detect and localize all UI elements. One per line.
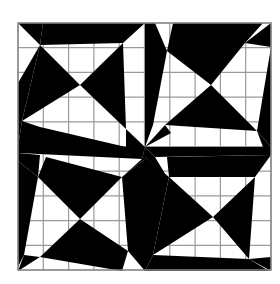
top-bar <box>167 155 271 177</box>
geometric-pattern-figure <box>0 0 280 284</box>
